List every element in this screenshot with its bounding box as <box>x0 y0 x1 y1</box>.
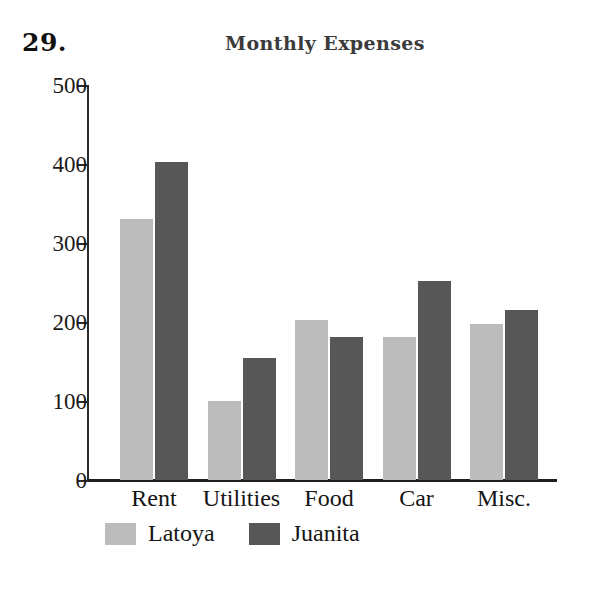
y-tick-label: 300 <box>27 232 87 255</box>
problem-number: 29. <box>22 28 67 57</box>
y-tick-label: 100 <box>27 390 87 413</box>
legend-label-latoya: Latoya <box>148 520 215 547</box>
chart-legend: LatoyaJuanita <box>105 520 394 547</box>
bar-latoya-misc <box>470 324 503 480</box>
bar-juanita-utilities <box>243 358 276 480</box>
legend-label-juanita: Juanita <box>292 520 360 547</box>
legend-item-latoya[interactable]: Latoya <box>105 520 215 547</box>
chart-plot-area: 5004003002001000 RentUtilitiesFoodCarMis… <box>87 85 557 480</box>
bar-juanita-rent <box>155 162 188 480</box>
x-category-label: Misc. <box>434 485 574 512</box>
y-tick-label: 0 <box>27 469 87 492</box>
bar-juanita-car <box>418 281 451 480</box>
y-tick-label: 400 <box>27 153 87 176</box>
bar-latoya-rent <box>120 219 153 480</box>
bar-latoya-food <box>295 320 328 480</box>
legend-item-juanita[interactable]: Juanita <box>249 520 360 547</box>
bar-juanita-misc <box>505 310 538 480</box>
y-tick-label: 500 <box>27 74 87 97</box>
legend-swatch-juanita <box>249 523 280 545</box>
legend-swatch-latoya <box>105 523 136 545</box>
chart-title: Monthly Expenses <box>170 32 480 54</box>
y-axis-line <box>87 85 89 480</box>
bar-juanita-food <box>330 337 363 480</box>
bar-latoya-utilities <box>208 401 241 480</box>
y-tick-label: 200 <box>27 311 87 334</box>
bar-latoya-car <box>383 337 416 480</box>
